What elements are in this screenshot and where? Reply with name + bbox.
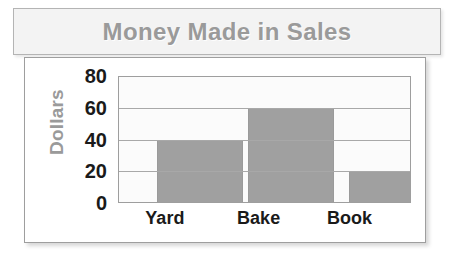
x-tick-label-bake: Bake — [237, 208, 280, 230]
gridline — [119, 140, 410, 141]
chart-card: Dollars 80 60 40 20 0 Yard Bake Book — [24, 57, 426, 243]
y-tick-label: 0 — [96, 193, 107, 213]
y-axis-tick-labels: 80 60 40 20 0 — [63, 76, 113, 203]
chart-title: Money Made in Sales — [102, 18, 351, 46]
y-tick-label: 40 — [85, 130, 107, 150]
y-tick-label: 20 — [85, 161, 107, 181]
gridline — [119, 108, 410, 109]
y-tick-label: 60 — [85, 98, 107, 118]
x-tick-label-book: Book — [327, 208, 372, 230]
y-tick-label: 80 — [85, 66, 107, 86]
chart-title-box: Money Made in Sales — [13, 8, 441, 55]
plot-area — [118, 76, 411, 203]
chart-screenshot: Money Made in Sales Dollars 80 60 40 20 … — [0, 0, 449, 264]
x-tick-label-yard: Yard — [145, 208, 184, 230]
bar-book — [349, 171, 411, 202]
bar-bake — [248, 108, 334, 202]
gridline — [119, 171, 410, 172]
x-axis-tick-labels: Yard Bake Book — [118, 208, 411, 234]
